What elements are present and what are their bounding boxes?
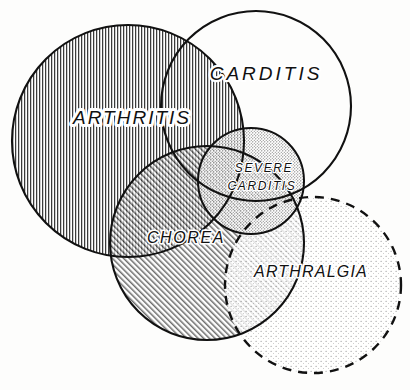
label-chorea: CHOREA [147, 229, 225, 246]
label-arthritis: ARTHRITIS [72, 107, 191, 128]
label-severe-carditis-line1: SEVERE [235, 161, 293, 175]
venn-diagram-figure: ARTHRITIS CARDITIS SEVERE CARDITIS CHORE… [0, 0, 410, 390]
label-carditis: CARDITIS [210, 63, 323, 84]
venn-diagram-canvas: ARTHRITIS CARDITIS SEVERE CARDITIS CHORE… [0, 0, 410, 390]
label-arthralgia: ARTHRALGIA [253, 263, 368, 280]
label-severe-carditis-line2: CARDITIS [228, 179, 297, 193]
